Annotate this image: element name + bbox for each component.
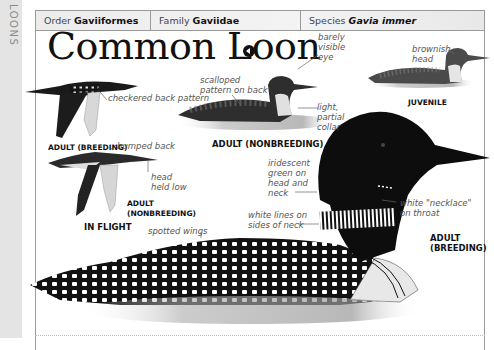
label-white-lines-neck: white lines on sides of neck bbox=[248, 210, 320, 230]
caption-adult-breeding-1: ADULT bbox=[430, 233, 460, 243]
label-brownish-head: brownish head bbox=[412, 44, 452, 64]
label-humped-back: humped back bbox=[117, 141, 175, 151]
caption-flight-nonbreeding: ADULT (NONBREEDING) bbox=[127, 199, 187, 219]
caption-juvenile: JUVENILE bbox=[408, 98, 447, 108]
bottom-divider bbox=[35, 335, 485, 337]
caption-adult-breeding-2: (BREEDING) bbox=[430, 243, 487, 253]
label-spotted-wings: spotted wings bbox=[148, 226, 208, 236]
label-checkered-back: checkered back pattern bbox=[108, 93, 209, 103]
label-scalloped-pattern: scalloped pattern on back bbox=[200, 75, 270, 95]
label-barely-visible-eye: barely visible eye bbox=[318, 32, 358, 62]
label-white-necklace: white "necklace" on throat bbox=[400, 198, 480, 218]
caption-swimming-nonbreeding: ADULT (NONBREEDING) bbox=[212, 139, 323, 149]
label-light-partial-collar: light, partial collar bbox=[317, 102, 357, 132]
flight-breeding-loon bbox=[25, 82, 138, 139]
caption-flight-breeding: ADULT (BREEDING) bbox=[48, 143, 127, 153]
caption-in-flight: IN FLIGHT bbox=[84, 222, 132, 232]
label-iridescent-green: iridescent green on head and neck bbox=[268, 158, 320, 198]
label-head-held-low: head held low bbox=[151, 172, 191, 192]
